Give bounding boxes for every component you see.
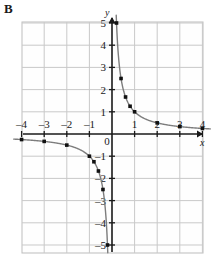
- data-point-marker: [128, 104, 132, 108]
- data-point-marker: [133, 110, 137, 114]
- x-tick-label: –3: [38, 118, 51, 130]
- y-tick-label: 4: [101, 39, 107, 51]
- y-tick-label: 5: [101, 17, 107, 29]
- data-point-marker: [106, 243, 110, 247]
- data-point-marker: [115, 21, 119, 25]
- data-point-marker: [124, 95, 128, 99]
- y-axis-label: y: [104, 7, 110, 18]
- x-tick-label: –4: [15, 118, 28, 130]
- hyperbola-graph: –4–3–2–11234054321–1–2–3–4–5 x y: [0, 0, 214, 261]
- data-point-marker: [119, 77, 123, 81]
- y-axis-arrowhead: [109, 17, 116, 23]
- data-point-marker: [178, 125, 182, 129]
- data-point-marker: [20, 138, 24, 142]
- x-tick-label: –2: [60, 118, 72, 130]
- y-tick-label: 2: [101, 84, 107, 96]
- data-point-marker: [101, 188, 105, 192]
- data-point-marker: [65, 143, 69, 147]
- y-tick-label: 3: [101, 61, 107, 73]
- data-point-marker: [92, 160, 96, 164]
- origin-label: 0: [104, 135, 110, 147]
- y-tick-label: –4: [94, 217, 107, 229]
- y-tick-label: –5: [94, 239, 107, 251]
- graph-panel: B –4–3–2–11234054321–1–2–3–4–5 x y: [0, 0, 214, 261]
- data-point-marker: [88, 154, 92, 158]
- x-tick-label: 1: [132, 118, 138, 130]
- data-point-marker: [97, 169, 101, 173]
- y-tick-label: 1: [101, 106, 107, 118]
- data-point-marker: [42, 140, 46, 144]
- y-tick-label: –1: [94, 150, 106, 162]
- data-point-marker: [201, 127, 205, 131]
- x-tick-label: –1: [83, 118, 95, 130]
- data-point-marker: [155, 121, 159, 125]
- x-axis-label: x: [199, 137, 205, 148]
